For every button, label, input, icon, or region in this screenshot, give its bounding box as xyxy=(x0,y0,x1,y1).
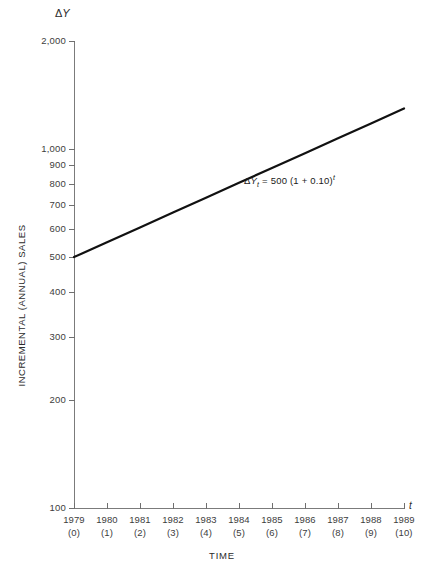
equation-body: = 500 (1 + 0.10) xyxy=(259,175,333,186)
series-line-incremental-sales xyxy=(74,109,404,258)
plot-area xyxy=(0,0,424,573)
growth-equation-annotation: ΔYt = 500 (1 + 0.10)t xyxy=(244,174,335,188)
equation-superscript: t xyxy=(333,174,335,181)
chart-figure: ΔY t INCREMENTAL (ANNUAL) SALES TIME 100… xyxy=(0,0,424,573)
